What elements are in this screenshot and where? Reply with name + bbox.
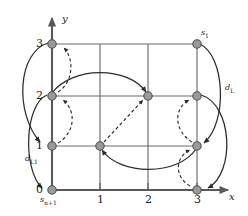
node-label-sn1: sn+1 [40, 196, 57, 206]
grid-lines [52, 44, 197, 190]
y-tick-label-2: 2 [36, 90, 43, 101]
x-tick-label-1: 1 [97, 194, 104, 205]
x-tick-label-3: 3 [194, 194, 201, 205]
distance-label-left: dL1 [25, 155, 38, 165]
node-3-1[interactable] [193, 142, 201, 150]
figure-canvas: 3 2 1 0 1 2 3 y x s1 sn+1 dL dL1 [0, 0, 248, 216]
node-3-3[interactable] [193, 40, 201, 48]
arrow-dashed-right-up-1 [178, 100, 192, 142]
node-2-2[interactable] [144, 92, 152, 100]
distance-label-right: dL [225, 84, 234, 94]
distance-label-right-sub: L [230, 87, 234, 94]
node-label-sn1-sub: n+1 [44, 199, 57, 206]
node-0-1[interactable] [48, 142, 56, 150]
arrow-dashed-right-up-2 [178, 150, 190, 186]
node-0-0[interactable] [48, 186, 56, 194]
solid-arrows [23, 43, 227, 188]
y-tick-label-0: 0 [36, 184, 43, 195]
x-axis-label: x [229, 192, 235, 202]
node-0-2[interactable] [48, 92, 56, 100]
arrow-solid-row1 [102, 149, 196, 169]
y-axis-label: y [62, 14, 68, 24]
distance-label-left-sub: L1 [30, 158, 38, 165]
arrow-dashed-left-up-2 [58, 100, 72, 143]
x-tick-label-2: 2 [145, 194, 152, 205]
arrow-solid-right-top [200, 44, 220, 143]
node-0-3[interactable] [48, 40, 56, 48]
node-3-2[interactable] [193, 92, 201, 100]
arrow-dashed-diagonal [104, 100, 143, 142]
arrow-solid-row2 [52, 73, 146, 93]
y-tick-label-3: 3 [36, 38, 43, 49]
node-1-1[interactable] [96, 142, 104, 150]
node-label-s1-sub: 1 [205, 32, 209, 39]
y-tick-label-1: 1 [36, 140, 43, 151]
node-label-s1: s1 [201, 29, 209, 39]
